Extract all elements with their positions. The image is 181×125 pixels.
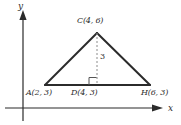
vertex-label-A: A(2, 3) — [26, 89, 52, 97]
vertex-label-H: H(6, 3) — [141, 89, 168, 97]
vertex-label-D: D(4, 3) — [71, 89, 98, 97]
y-axis-label: y — [18, 2, 23, 11]
x-axis-label: x — [168, 104, 173, 113]
vertex-label-C: C(4, 6) — [77, 17, 103, 25]
geometry-figure: C(4, 6) A(2, 3) D(4, 3) H(6, 3) y x 3 — [0, 0, 181, 125]
y-axis-arrowhead-icon — [19, 10, 26, 20]
right-angle-marker-icon — [89, 78, 97, 86]
x-axis-arrowhead-icon — [152, 104, 163, 111]
altitude-length-label: 3 — [100, 53, 105, 61]
